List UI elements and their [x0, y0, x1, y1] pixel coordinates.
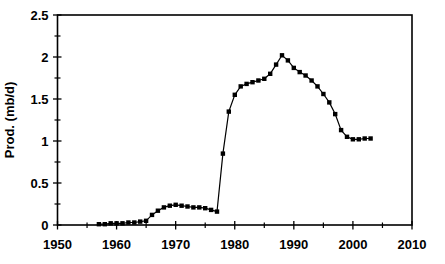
data-point	[97, 222, 101, 226]
y-tick-label: 1	[41, 134, 48, 149]
data-point-markers	[97, 53, 373, 226]
y-tick-label: 0.5	[30, 176, 48, 191]
data-point	[256, 78, 260, 82]
y-tick-label: 0	[41, 218, 48, 233]
x-tick-label: 1990	[279, 237, 308, 252]
data-point	[339, 128, 343, 132]
data-point	[333, 112, 337, 116]
data-point	[368, 136, 372, 140]
data-point	[244, 82, 248, 86]
data-point	[327, 100, 331, 104]
data-point	[179, 204, 183, 208]
data-point	[315, 84, 319, 88]
data-point	[239, 84, 243, 88]
data-point	[174, 203, 178, 207]
data-point	[191, 205, 195, 209]
data-point	[280, 53, 284, 57]
x-tick-label: 1960	[102, 237, 131, 252]
data-point	[227, 109, 231, 113]
data-point	[168, 204, 172, 208]
data-point	[185, 204, 189, 208]
data-point	[309, 78, 313, 82]
y-tick-label: 1.5	[30, 92, 48, 107]
data-point	[286, 58, 290, 62]
data-point	[363, 136, 367, 140]
data-point	[120, 221, 124, 225]
data-point	[150, 213, 154, 217]
x-tick-label: 1980	[220, 237, 249, 252]
data-point	[351, 137, 355, 141]
data-point	[292, 66, 296, 70]
y-axis-title: Prod. (mb/d)	[2, 82, 17, 159]
data-point	[303, 73, 307, 77]
chart-canvas: 195019601970198019902000201000.511.522.5…	[0, 0, 445, 264]
data-point	[215, 209, 219, 213]
data-point	[298, 70, 302, 74]
data-point	[357, 137, 361, 141]
x-tick-label: 1970	[161, 237, 190, 252]
x-tick-label: 1950	[43, 237, 72, 252]
x-tick-label: 2000	[338, 237, 367, 252]
data-series	[97, 53, 373, 226]
data-point	[144, 219, 148, 223]
data-point	[103, 222, 107, 226]
data-point	[162, 205, 166, 209]
data-point	[274, 62, 278, 66]
y-tick-label: 2	[41, 50, 48, 65]
axis-ticks	[53, 15, 412, 230]
axis-tick-labels: 195019601970198019902000201000.511.522.5	[30, 8, 426, 253]
data-point	[132, 220, 136, 224]
data-point	[268, 72, 272, 76]
data-point	[345, 135, 349, 139]
production-chart: 195019601970198019902000201000.511.522.5…	[0, 0, 445, 264]
data-point	[138, 219, 142, 223]
data-point	[209, 208, 213, 212]
data-point	[321, 92, 325, 96]
y-tick-label: 2.5	[30, 8, 48, 23]
data-point	[221, 151, 225, 155]
production-line	[99, 55, 371, 224]
data-point	[126, 220, 130, 224]
data-point	[233, 93, 237, 97]
data-point	[262, 77, 266, 81]
data-point	[156, 209, 160, 213]
x-tick-label: 2010	[398, 237, 427, 252]
plot-border	[58, 15, 413, 225]
data-point	[203, 206, 207, 210]
data-point	[109, 221, 113, 225]
data-point	[197, 205, 201, 209]
data-point	[114, 221, 118, 225]
data-point	[250, 80, 254, 84]
